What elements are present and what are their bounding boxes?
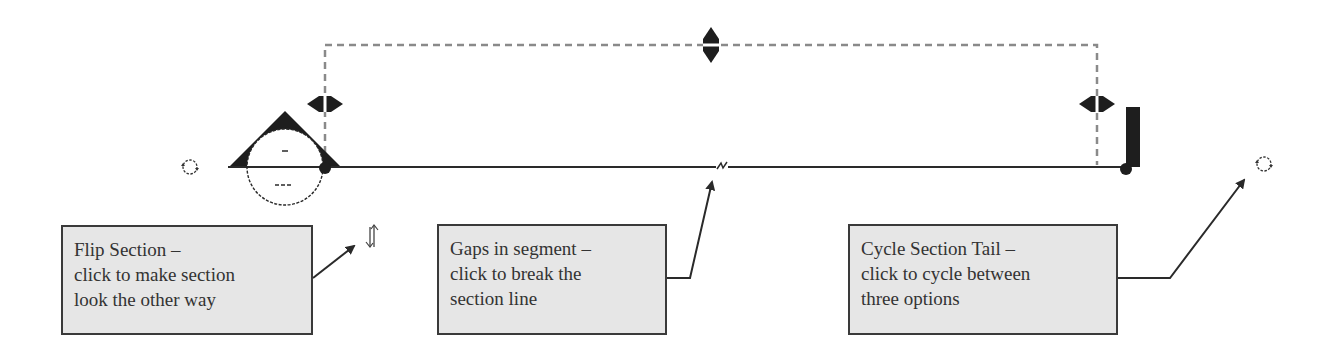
callout-gaps-in-segment: Gaps in segment – click to break the sec…: [437, 224, 667, 335]
callout-line: Cycle Section Tail –: [861, 236, 1106, 261]
leader-arrow-gaps: [667, 182, 712, 278]
callout-line: Gaps in segment –: [450, 236, 655, 261]
callout-line: click to break the: [450, 261, 655, 286]
rotate-icon-left[interactable]: [181, 160, 199, 174]
rotate-icon-right[interactable]: [1255, 157, 1273, 171]
callout-line: click to make section: [74, 262, 301, 287]
callout-cycle-section-tail: Cycle Section Tail – click to cycle betw…: [848, 224, 1118, 335]
callout-line: click to cycle between: [861, 261, 1106, 286]
gap-break-icon[interactable]: [716, 162, 728, 170]
callout-flip-section: Flip Section – click to make section loo…: [61, 225, 313, 335]
callout-line: section line: [450, 286, 655, 311]
section-tail-bar[interactable]: [1120, 107, 1140, 175]
flip-arrows-icon[interactable]: [366, 225, 378, 247]
leader-arrow-cycle: [1118, 180, 1244, 278]
callout-line: Flip Section –: [74, 237, 301, 262]
resize-handle-left-icon[interactable]: [307, 96, 343, 112]
leader-arrow-flip: [313, 246, 354, 278]
resize-handle-right-icon[interactable]: [1079, 96, 1115, 112]
callout-line: look the other way: [74, 287, 301, 312]
resize-handle-top-icon[interactable]: [703, 27, 719, 63]
callout-line: three options: [861, 286, 1106, 311]
